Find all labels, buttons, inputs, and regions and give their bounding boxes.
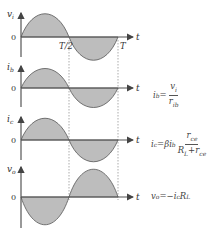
half-period-label: T/2	[59, 41, 73, 51]
t-label-4: t	[136, 192, 140, 202]
zero-label-3: 0	[11, 136, 16, 145]
ic-fraction: rce RL+rce	[178, 130, 207, 158]
vo-axis-label: vo	[7, 164, 16, 175]
ic-axis-label: ic	[7, 114, 14, 125]
t-label-1: t	[136, 32, 140, 42]
panel-vi	[21, 13, 133, 60]
panel-vo	[21, 167, 133, 228]
t-label-3: t	[136, 135, 140, 145]
period-label: T	[120, 41, 127, 51]
vo-equation: vo =−ic RL	[151, 191, 190, 201]
panel-ic	[21, 117, 133, 162]
panel-ib	[21, 66, 133, 108]
vi-axis-label: vi	[7, 9, 14, 20]
ib-equation: ib = vi rib	[153, 81, 179, 109]
zero-label-1: 0	[11, 33, 16, 42]
zero-label-4: 0	[11, 193, 16, 202]
ib-fraction: vi rib	[169, 81, 179, 109]
ic-equation: ic =βib rce RL+rce	[151, 130, 206, 158]
ib-axis-label: ib	[7, 62, 14, 73]
zero-label-2: 0	[11, 84, 16, 93]
t-label-2: t	[136, 83, 140, 93]
